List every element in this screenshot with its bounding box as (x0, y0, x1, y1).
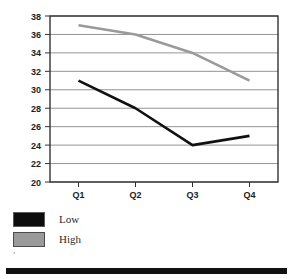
y-tick-label: 22 (31, 159, 41, 169)
line-chart-svg: 20222426283032343638Q1Q2Q3Q4 (0, 8, 293, 203)
legend-swatch-high (13, 232, 45, 247)
legend-item-low[interactable]: Low (13, 210, 173, 229)
legend-swatch-low (13, 212, 45, 227)
y-tick-label: 20 (31, 178, 41, 188)
chart-legend: Low High (13, 210, 173, 250)
y-tick-label: 38 (31, 12, 41, 22)
legend-label-low: Low (59, 214, 79, 225)
y-tick-label: 36 (31, 30, 41, 40)
legend-item-high[interactable]: High (13, 230, 173, 249)
x-tick-label: Q3 (186, 190, 198, 200)
y-tick-label: 34 (31, 48, 41, 58)
plot-frame (50, 16, 278, 182)
footer-bar (6, 268, 287, 274)
y-tick-label: 28 (31, 104, 41, 114)
y-tick-label: 24 (31, 141, 41, 151)
legend-label-high: High (59, 234, 81, 245)
y-tick-label: 26 (31, 122, 41, 132)
stray-mark: ′ (12, 250, 16, 260)
chart-figure: 20222426283032343638Q1Q2Q3Q4 Low High ′ (0, 0, 293, 279)
x-tick-label: Q1 (72, 190, 84, 200)
x-tick-label: Q2 (129, 190, 141, 200)
x-tick-label: Q4 (243, 190, 255, 200)
plot-area: 20222426283032343638Q1Q2Q3Q4 (0, 8, 293, 203)
series-line-low (79, 81, 250, 146)
y-tick-label: 32 (31, 67, 41, 77)
y-tick-label: 30 (31, 85, 41, 95)
